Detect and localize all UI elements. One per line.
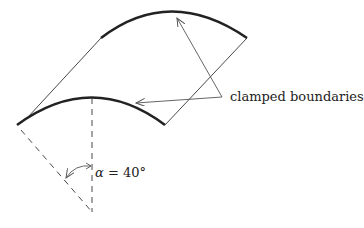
clamped-boundaries-label: clamped boundaries: [230, 89, 364, 104]
angle-label: α = 40°: [95, 165, 146, 180]
shell-diagram: [0, 0, 364, 228]
left-edge-line: [28, 38, 101, 117]
lower-clamped-arc: [17, 98, 165, 126]
upper-clamped-arc: [101, 12, 247, 39]
angle-value: = 40°: [104, 165, 146, 180]
callout-arrow-lower: [136, 97, 222, 103]
callout-arrow-upper: [177, 18, 222, 97]
right-edge-line: [165, 38, 247, 125]
angle-arc-arrow: [66, 166, 91, 178]
slanted-radius-dashed: [21, 130, 92, 212]
alpha-symbol: α: [95, 165, 104, 180]
